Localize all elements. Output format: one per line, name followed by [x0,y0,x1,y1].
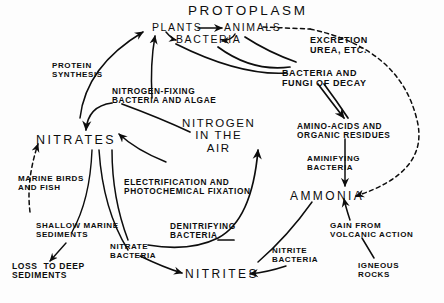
label-protein-synthesis: PROTEIN SYNTHESIS [52,62,103,79]
label-aminifying-bacteria: AMINIFYING BACTERIA [307,155,360,172]
node-animals: ANIMALS [224,22,281,33]
arrow-decay-to-amino-2 [324,84,348,118]
label-nitrogen-fixing-bacteria: NITROGEN-FIXING BACTERIA AND ALGAE [112,87,216,105]
label-electrification-photochemical-fixation: ELECTRIFICATION AND PHOTOCHEMICAL FIXATI… [124,178,251,196]
label-denitrifying-bacteria: DENITRIFYING BACTERIA [170,222,236,240]
arrow-decay-to-amino-1 [318,84,344,118]
node-plants: PLANTS [152,22,202,33]
arrow-animals-to-decay [245,37,296,62]
label-marine-birds-and-fish: MARINE BIRDS AND FISH [18,175,84,192]
node-protoplasm: PROTOPLASM [188,4,308,19]
label-nitrite-bacteria: NITRITE BACTERIA [272,247,318,264]
node-bacteria: BACTERIA [176,34,241,45]
node-ammonia: AMMONIA [290,190,364,203]
node-nitrogen-in-the-air: NITROGEN IN THE AIR [182,117,256,154]
node-igneous-rocks: IGNEOUS ROCKS [358,262,399,279]
arrow-igneous-to-volcanic [362,238,374,258]
arrow-nair-to-fixing [122,104,190,132]
arrow-fixing-to-nitrates [86,103,112,130]
label-excretion-urea: EXCRETION UREA, ETC. [310,36,368,55]
arrow-electrification-to-nitrates [119,134,166,162]
node-loss-to-deep-sediments: LOSS TO DEEP SEDIMENTS [12,262,85,280]
label-nitrate-bacteria: NITRATE BACTERIA [110,243,156,260]
label-bacteria-fungi-of-decay: BACTERIA AND FUNGI OF DECAY [282,69,367,88]
node-amino-acids-organic-residues: AMINO-ACIDS AND ORGANIC RESIDUES [297,122,391,140]
arrow-plants-to-decay [176,44,287,73]
label-shallow-marine-sediments: SHALLOW MARINE SEDIMENTS [36,222,119,239]
node-nitrates: NITRATES [36,134,116,148]
label-gain-from-volcanic-action: GAIN FROM VOLCANIC ACTION [330,222,413,239]
arrow-shallow-to-loss [50,243,66,261]
nitrogen-cycle-diagram: EXCRETION curve down to AMMONIA --> [0,0,444,303]
node-nitrites: NITRITES [185,268,259,281]
